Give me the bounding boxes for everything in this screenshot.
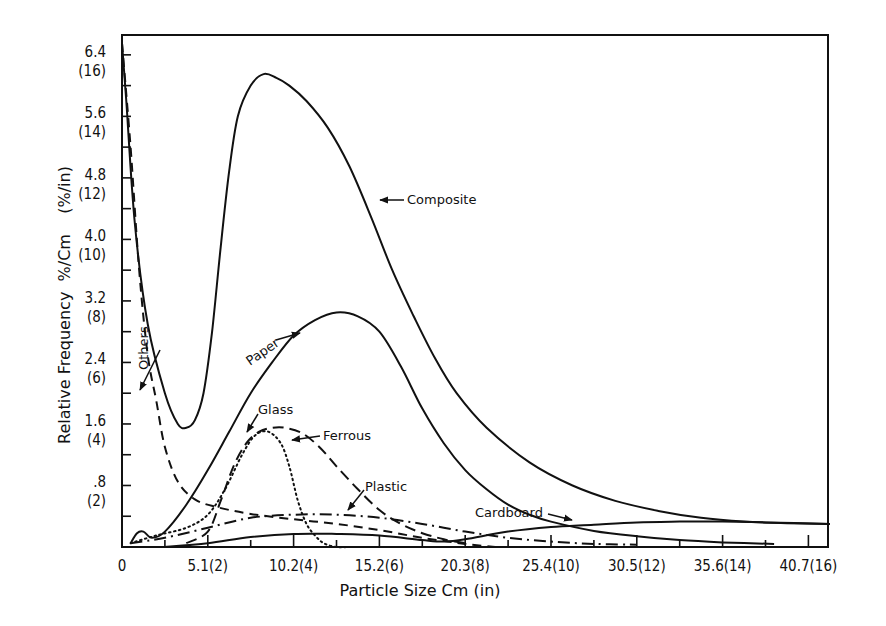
glass-arrow-icon — [247, 414, 258, 432]
cardboard-arrow-icon — [548, 514, 572, 520]
y-tick-alt-label: (12) — [78, 185, 106, 203]
particle-size-chart: 05.1(2)10.2(4)15.2(6)20.3(8)25.4(10)30.5… — [0, 0, 886, 626]
series-plastic — [131, 514, 637, 544]
composite-label: Composite — [407, 192, 476, 207]
plot-frame — [122, 35, 828, 547]
y-tick-label: 6.4 — [85, 43, 106, 61]
x-tick-label: 10.2(4) — [269, 557, 318, 575]
x-tick-label: 15.2(6) — [355, 557, 404, 575]
series-annotations: CompositePaperOthersGlassFerrousPlasticC… — [136, 192, 572, 520]
y-tick-label: 4.8 — [85, 166, 106, 184]
paper-arrow-icon — [276, 333, 300, 340]
x-axis-title: Particle Size Cm (in) — [339, 581, 500, 600]
paper-label: Paper — [243, 335, 282, 369]
x-tick-label: 25.4(10) — [522, 557, 580, 575]
x-tick-label: 20.3(8) — [441, 557, 490, 575]
x-tick-label: 0 — [118, 557, 127, 575]
x-tick-label: 35.6(14) — [694, 557, 752, 575]
y-tick-alt-label: (16) — [78, 62, 106, 80]
series-glass — [131, 431, 350, 547]
ferrous-label: Ferrous — [323, 428, 371, 443]
others-label: Others — [136, 326, 151, 370]
series-others — [122, 43, 495, 547]
cardboard-label: Cardboard — [475, 505, 543, 520]
y-tick-label: 4.0 — [85, 227, 106, 245]
y-tick-alt-label: (14) — [78, 123, 106, 141]
y-tick-alt-label: (10) — [78, 246, 106, 264]
x-tick-label: 5.1(2) — [188, 557, 229, 575]
y-axis-title: Relative Frequency %/Cm (%/in) — [55, 166, 74, 444]
y-tick-label: 1.6 — [85, 412, 106, 430]
y-tick-alt-label: (6) — [87, 369, 106, 387]
x-tick-label: 30.5(12) — [608, 557, 666, 575]
plastic-arrow-icon — [348, 490, 364, 510]
glass-label: Glass — [258, 402, 293, 417]
y-tick-alt-label: (2) — [87, 492, 106, 510]
y-tick-label: .8 — [93, 473, 106, 491]
y-tick-label: 5.6 — [85, 104, 106, 122]
y-tick-alt-label: (4) — [87, 431, 106, 449]
y-axis-ticks: .8(2)1.6(4)2.4(6)3.2(8)4.0(10)4.8(12)5.6… — [78, 43, 131, 516]
plastic-label: Plastic — [365, 479, 407, 494]
series-composite — [122, 43, 830, 524]
series-lines — [122, 43, 830, 547]
y-tick-label: 2.4 — [85, 350, 106, 368]
series-ferrous — [186, 427, 465, 543]
x-tick-label: 40.7(16) — [780, 557, 838, 575]
y-tick-alt-label: (8) — [87, 308, 106, 326]
y-tick-label: 3.2 — [85, 289, 106, 307]
